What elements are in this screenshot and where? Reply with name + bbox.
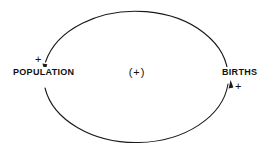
causal-loop-diagram: + POPULATION BIRTHS + (+) (0, 0, 268, 153)
node-label-births: BIRTHS (221, 67, 258, 78)
polarity-sign-population: + (35, 54, 41, 65)
loop-polarity-label: (+) (119, 66, 155, 79)
node-label-population: POPULATION (12, 67, 75, 78)
polarity-sign-births: + (235, 81, 241, 92)
arrowhead-into-births-icon (229, 80, 234, 88)
loop-arc-bottom (45, 84, 228, 143)
